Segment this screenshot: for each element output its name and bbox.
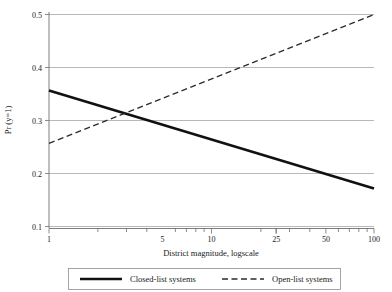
x-tick-label-100: 100 (368, 235, 380, 244)
x-axis-title: District magnitude, logscale (163, 248, 259, 258)
x-tick-label-5: 5 (161, 235, 165, 244)
y-axis-title: Pr (y=1) (3, 106, 13, 135)
x-tick-label-1: 1 (47, 235, 51, 244)
y-tick-label-0.4: 0.4 (32, 64, 42, 73)
legend-label-open-list: Open-list systems (272, 274, 333, 284)
y-tick-label-0.2: 0.2 (32, 170, 42, 179)
y-tick-label-0.3: 0.3 (32, 117, 42, 126)
legend-label-closed-list: Closed-list systems (130, 274, 196, 284)
x-tick-label-50: 50 (322, 235, 330, 244)
x-tick-label-10: 10 (208, 235, 216, 244)
y-tick-label-0.1: 0.1 (32, 223, 42, 232)
legend: Closed-list systems Open-list systems (69, 269, 341, 290)
y-tick-label-0.5: 0.5 (32, 11, 42, 20)
x-tick-label-25: 25 (272, 235, 280, 244)
chart-figure: 0.5 0.4 0.3 0.2 0.1 Pr (y=1) 1 5 10 (0, 0, 392, 292)
